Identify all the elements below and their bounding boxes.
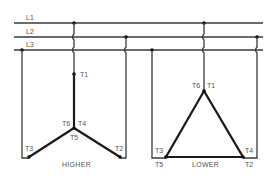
label-l1: L1: [26, 14, 34, 21]
terminal-label-t1: T1: [80, 71, 88, 78]
higher-wye-connection: T1 T6 T4 T5 T3 T2 HIGHER: [20, 21, 128, 168]
wire-l3-to-t3: [22, 50, 29, 158]
wire-l1-to-t1: [73, 23, 75, 74]
terminal-dot-t3: [27, 155, 31, 159]
terminal-dot-t2: [118, 155, 122, 159]
label-l3: L3: [26, 41, 34, 48]
terminal-label-t5: T5: [155, 161, 163, 168]
winding-t2-t5: [74, 128, 120, 157]
terminal-label-t4: T4: [78, 120, 86, 127]
wire-l3-to-t3t5: [152, 50, 166, 158]
lower-delta-connection: T6 T1 T3 T5 T4 T2 LOWER: [150, 21, 259, 168]
terminal-label-t6: T6: [192, 82, 200, 89]
terminal-dot-t2t4: [241, 155, 245, 159]
terminal-label-t3: T3: [25, 145, 33, 152]
terminal-dot-t3t5: [164, 155, 168, 159]
neutral-dot: [72, 126, 75, 129]
label-l2: L2: [26, 28, 34, 35]
supply-lines: L1 L2 L3: [14, 14, 263, 50]
caption-higher: HIGHER: [62, 161, 91, 168]
terminal-label-t2: T2: [245, 161, 253, 168]
voltage-connection-diagram: L1 L2 L3 T1 T6 T4 T5 T3 T2 HIGHER: [0, 0, 275, 177]
terminal-label-t6: T6: [62, 120, 70, 127]
terminal-label-t5: T5: [70, 134, 78, 141]
winding-t3-t6: [29, 128, 74, 157]
wire-l2-to-t2t4: [243, 37, 257, 158]
wire-l2-to-t2: [120, 37, 126, 158]
terminal-dot-t1t6: [202, 89, 206, 93]
wire-l1-to-t1t6: [203, 23, 205, 91]
delta-windings: [166, 91, 243, 157]
terminal-label-t2: T2: [115, 145, 123, 152]
terminal-label-t4: T4: [245, 147, 253, 154]
terminal-label-t1: T1: [207, 82, 215, 89]
caption-lower: LOWER: [192, 161, 219, 168]
terminal-label-t3: T3: [155, 147, 163, 154]
